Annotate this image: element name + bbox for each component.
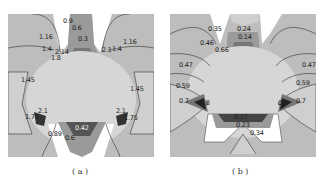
contour-label: 0.8 (278, 100, 288, 107)
contour-label: 0.47 (302, 62, 316, 69)
contour-label: 0.46 (200, 40, 214, 47)
contour-label: 1.75 (124, 115, 138, 122)
panel-caption-a: ( a ) (72, 167, 88, 176)
contour-label: 0.8 (200, 100, 210, 107)
contour-label: 0.89 (48, 131, 62, 138)
contour-label: 0.35 (208, 26, 222, 33)
contour-label: 1.75 (25, 114, 39, 121)
contour-label: 0.66 (215, 47, 229, 54)
contour-label: 0.24 (237, 26, 251, 33)
contour-label: 0.14 (238, 34, 252, 41)
contour-label: 0.3 (78, 36, 88, 43)
contour-label: 0.7 (296, 98, 306, 105)
contour-label: 0.7 (179, 98, 189, 105)
contour-label: 1.16 (39, 34, 53, 41)
contour-panel-b: 0.35 0.24 0.14 0.46 0.66 0.47 0.47 0.59 … (170, 14, 316, 157)
contour-label: 1.45 (21, 77, 35, 84)
contour-label: 1.16 (123, 39, 137, 46)
contour-label: 0.23 (236, 122, 250, 129)
contour-label: 2.1 (38, 108, 48, 115)
contour-label: 0.59 (296, 80, 310, 87)
contour-label: 0.17 (234, 114, 248, 121)
contour-label: 0.6 (65, 135, 75, 142)
contour-label: 0.42 (75, 125, 89, 132)
panel-caption-b: ( b ) (232, 167, 248, 176)
contour-label: 1.45 (130, 86, 144, 93)
contour-label: 0.6 (72, 25, 82, 32)
contour-label: 1.8 (51, 55, 61, 62)
contour-label: 2.1 (102, 47, 112, 54)
contour-label: 0.47 (179, 62, 193, 69)
contour-label: 1.4 (42, 46, 52, 53)
contour-label: 0.34 (250, 130, 264, 137)
contour-label: 1.4 (112, 46, 122, 53)
contour-label: 0.59 (176, 83, 190, 90)
contour-panel-a: 0.9 0.6 0.3 1.16 1.16 1.4 1.4 2.14 1.8 2… (8, 14, 154, 157)
